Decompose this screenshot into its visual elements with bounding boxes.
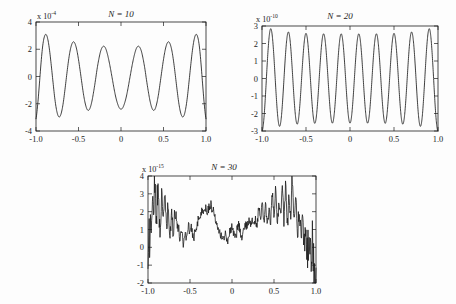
- y-ticklabels-n20: 3 2 1 0 -1 -2 -3: [251, 22, 258, 136]
- data-curve-n30: [148, 176, 316, 283]
- svg-text:0: 0: [140, 243, 144, 252]
- svg-text:-0.5: -0.5: [72, 135, 85, 144]
- y-ticks-n20: [262, 26, 438, 131]
- data-curve-n10: [36, 34, 206, 118]
- svg-text:1: 1: [254, 57, 258, 66]
- y-ticklabels-n30: 4 3 2 1 0 -1 -2: [137, 172, 145, 288]
- svg-text:0.5: 0.5: [269, 287, 279, 296]
- svg-text:-1.0: -1.0: [29, 135, 42, 144]
- svg-text:-0.5: -0.5: [183, 287, 196, 296]
- svg-text:-2: -2: [251, 110, 258, 119]
- chart-panel-n30: x 10-15 N = 30: [114, 152, 342, 304]
- chart-svg-n30: x 10-15 N = 30: [114, 152, 342, 304]
- svg-text:-1.0: -1.0: [255, 135, 268, 144]
- chart-title-n10: N = 10: [107, 9, 134, 19]
- data-curve-n20: [262, 29, 438, 131]
- svg-text:0: 0: [254, 75, 258, 84]
- chart-title-n30: N = 30: [210, 162, 237, 172]
- chart-panel-n20: x 10-10 N = 20: [228, 0, 456, 152]
- x-ticks-n10: [36, 22, 206, 131]
- svg-text:-2: -2: [25, 100, 32, 109]
- exponent-label-n30: x 10-15: [142, 163, 164, 174]
- svg-text:2: 2: [254, 40, 258, 49]
- svg-text:3: 3: [140, 190, 144, 199]
- figure-container: x 10-4 N = 10: [0, 0, 456, 304]
- svg-text:-1.0: -1.0: [141, 287, 154, 296]
- y-ticks-n10: [36, 22, 206, 131]
- svg-text:0: 0: [348, 135, 352, 144]
- svg-text:1.0: 1.0: [433, 135, 443, 144]
- chart-svg-n20: x 10-10 N = 20: [228, 0, 456, 152]
- svg-text:0.5: 0.5: [158, 135, 168, 144]
- x-ticklabels-n30: -1.0 -0.5 0 0.5 1.0: [141, 287, 321, 296]
- svg-text:-1: -1: [251, 92, 258, 101]
- chart-svg-n10: x 10-4 N = 10: [0, 0, 228, 152]
- chart-panel-n10: x 10-4 N = 10: [0, 0, 228, 152]
- exponent-label-n10: x 10-4: [37, 10, 56, 21]
- svg-text:3: 3: [254, 22, 258, 31]
- y-ticklabels-n10: 4 2 0 -2 -4: [25, 18, 33, 136]
- svg-text:0.5: 0.5: [389, 135, 399, 144]
- svg-text:1.0: 1.0: [201, 135, 211, 144]
- svg-text:-0.5: -0.5: [299, 135, 312, 144]
- axes-frame-n20: [262, 26, 438, 131]
- svg-text:1: 1: [140, 226, 144, 235]
- x-ticklabels-n10: -1.0 -0.5 0 0.5 1.0: [29, 135, 211, 144]
- svg-text:2: 2: [140, 208, 144, 217]
- exponent-label-n20: x 10-10: [256, 13, 278, 24]
- x-ticks-n20: [262, 26, 438, 131]
- axes-frame-n10: [36, 22, 206, 131]
- x-ticklabels-n20: -1.0 -0.5 0 0.5 1.0: [255, 135, 443, 144]
- svg-text:2: 2: [28, 45, 32, 54]
- svg-text:0: 0: [119, 135, 123, 144]
- svg-text:4: 4: [28, 18, 33, 27]
- svg-text:0: 0: [28, 73, 32, 82]
- chart-title-n20: N = 20: [326, 11, 353, 21]
- svg-text:1.0: 1.0: [311, 287, 321, 296]
- svg-text:-1: -1: [137, 261, 144, 270]
- svg-text:0: 0: [230, 287, 234, 296]
